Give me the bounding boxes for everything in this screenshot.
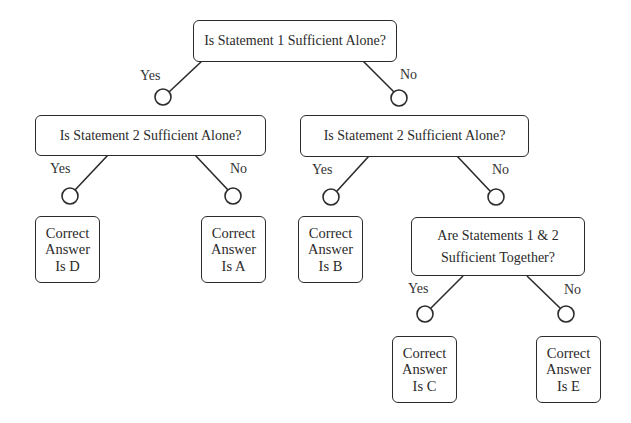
junction-circle: [225, 188, 241, 204]
edge-label-right-no: No: [492, 162, 509, 178]
answer-b-line1: Correct: [309, 225, 352, 242]
answer-e-line3: Is E: [557, 378, 580, 395]
junction-circle: [323, 189, 339, 205]
edge-label-root-yes: Yes: [140, 68, 160, 84]
question-left-text: Is Statement 2 Sufficient Alone?: [60, 128, 242, 144]
answer-e-line1: Correct: [547, 345, 590, 362]
edge-label-left-no: No: [230, 161, 247, 177]
question-root: Is Statement 1 Sufficient Alone?: [193, 20, 397, 62]
question-root-text: Is Statement 1 Sufficient Alone?: [204, 33, 386, 49]
edge-right-yes: [337, 156, 369, 191]
edge-label-root-no: No: [400, 67, 417, 83]
junction-circle: [155, 89, 171, 105]
question-together-line1: Are Statements 1 & 2: [437, 225, 558, 247]
junction-circle: [417, 306, 433, 322]
answer-a-line1: Correct: [212, 225, 255, 242]
edge-left-no: [195, 155, 228, 190]
edge-root-no: [363, 61, 394, 92]
edge-right-no: [457, 156, 490, 191]
question-right: Is Statement 2 Sufficient Alone?: [300, 115, 529, 157]
edge-label-left-yes: Yes: [50, 161, 70, 177]
answer-a-box: Correct Answer Is A: [201, 216, 266, 283]
question-together-line2: Sufficient Together?: [441, 247, 555, 269]
question-left: Is Statement 2 Sufficient Alone?: [35, 115, 266, 156]
answer-d-box: Correct Answer Is D: [35, 216, 100, 283]
answer-e-box: Correct Answer Is E: [536, 336, 601, 403]
junction-circle: [488, 189, 504, 205]
answer-b-box: Correct Answer Is B: [298, 216, 363, 283]
answer-c-line1: Correct: [403, 345, 446, 362]
edge-together-no: [527, 276, 560, 308]
edge-label-together-yes: Yes: [408, 281, 428, 297]
answer-d-line3: Is D: [55, 258, 80, 275]
answer-c-line2: Answer: [402, 361, 447, 378]
answer-c-line3: Is C: [413, 378, 437, 395]
answer-e-line2: Answer: [546, 361, 591, 378]
junction-circle: [62, 188, 78, 204]
junction-circle: [391, 90, 407, 106]
edge-together-yes: [431, 276, 463, 308]
answer-d-line2: Answer: [45, 241, 90, 258]
question-together: Are Statements 1 & 2 Sufficient Together…: [411, 217, 585, 276]
answer-d-line1: Correct: [46, 225, 89, 242]
edge-label-right-yes: Yes: [312, 162, 332, 178]
edge-left-yes: [75, 155, 108, 190]
answer-b-line2: Answer: [308, 241, 353, 258]
junction-circle: [558, 306, 574, 322]
answer-c-box: Correct Answer Is C: [392, 336, 457, 403]
edge-root-yes: [169, 61, 202, 92]
edge-label-together-no: No: [564, 282, 581, 298]
question-right-text: Is Statement 2 Sufficient Alone?: [324, 128, 506, 144]
answer-a-line3: Is A: [222, 258, 246, 275]
answer-a-line2: Answer: [211, 241, 256, 258]
answer-b-line3: Is B: [319, 258, 343, 275]
